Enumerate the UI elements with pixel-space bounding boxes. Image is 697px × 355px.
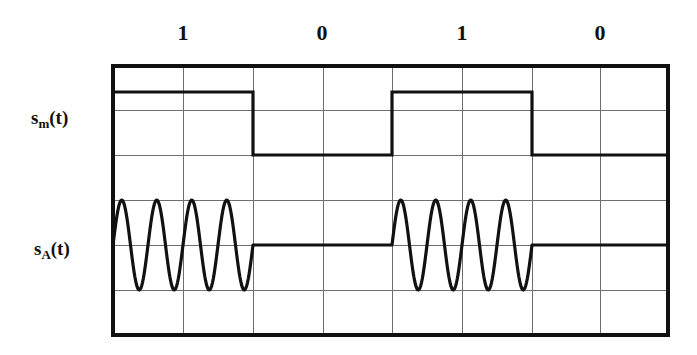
- waveform-plot: [0, 0, 697, 355]
- signal-label-sm: sm(t): [31, 107, 68, 132]
- signal-label-sa: sA(t): [34, 238, 70, 263]
- ask-waveform-figure: 1 0 1 0 sm(t) sA(t): [0, 0, 697, 355]
- signal-label-sm-tail: (t): [49, 107, 68, 128]
- bit-label-1: 0: [302, 20, 342, 46]
- signal-label-sa-subscript: A: [41, 247, 50, 262]
- signal-label-sm-subscript: m: [38, 116, 49, 131]
- trace-modulating-signal: [113, 92, 668, 155]
- signal-label-sa-tail: (t): [51, 238, 70, 259]
- bit-label-3: 0: [580, 20, 620, 46]
- bit-label-0: 1: [163, 20, 203, 46]
- bit-label-2: 1: [442, 20, 482, 46]
